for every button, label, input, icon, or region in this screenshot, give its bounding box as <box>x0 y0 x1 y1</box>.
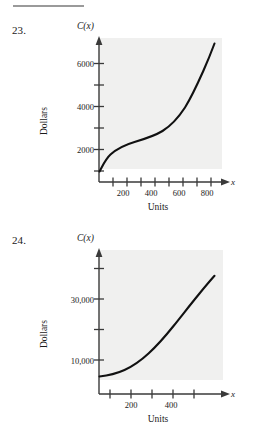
x-axis-arrow-23 <box>221 179 230 186</box>
chart-24-svg <box>0 228 263 425</box>
cost-curve-24 <box>100 276 215 377</box>
x-axis-arrow-24 <box>221 391 230 398</box>
cost-curve-23 <box>100 44 215 172</box>
y-axis-arrow-24 <box>96 248 103 257</box>
problem-23: 23. C(x) x Dollars Units 2000 4000 6000 … <box>0 18 263 218</box>
chart-23: C(x) x Dollars Units 2000 4000 6000 200 … <box>0 18 263 218</box>
chart-23-svg <box>0 18 263 218</box>
top-horizontal-rule <box>13 5 84 7</box>
figure-page: 23. C(x) x Dollars Units 2000 4000 6000 … <box>0 0 263 425</box>
problem-24: 24. C(x) x Dollars Units 10,000 30,000 2… <box>0 228 263 425</box>
chart-24: C(x) x Dollars Units 10,000 30,000 200 4… <box>0 228 263 425</box>
y-axis-arrow-23 <box>96 36 103 45</box>
